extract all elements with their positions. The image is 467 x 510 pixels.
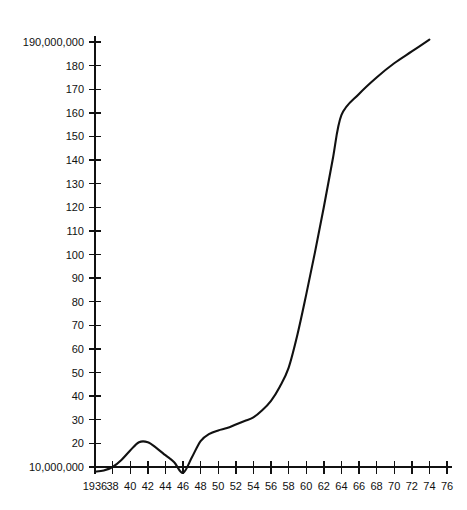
x-axis-labels: 1936384042444648505254565860626466687072… (83, 480, 453, 492)
y-tick-label: 110 (66, 225, 84, 237)
y-tick-label: 90 (72, 272, 84, 284)
y-tick-label: 20 (72, 437, 84, 449)
x-tick-label: 50 (212, 480, 224, 492)
x-tick-label: 74 (423, 480, 435, 492)
x-tick-label: 38 (106, 480, 118, 492)
y-tick-label: 60 (72, 343, 84, 355)
chart-container: 10,000,000203040506070809010011012013014… (0, 0, 467, 510)
y-tick-label: 70 (72, 319, 84, 331)
y-tick-label: 150 (66, 130, 84, 142)
x-tick-label: 58 (282, 480, 294, 492)
y-tick-label: 190,000,000 (23, 36, 84, 48)
x-tick-label: 64 (335, 480, 347, 492)
x-tick-label: 40 (124, 480, 136, 492)
line-chart: 10,000,000203040506070809010011012013014… (0, 0, 467, 510)
y-tick-label: 120 (66, 201, 84, 213)
x-tick-label: 70 (388, 480, 400, 492)
y-tick-label: 180 (66, 60, 84, 72)
y-tick-label: 80 (72, 296, 84, 308)
y-tick-label: 50 (72, 367, 84, 379)
x-tick-label: 44 (159, 480, 171, 492)
x-tick-label: 52 (230, 480, 242, 492)
x-tick-label: 48 (194, 480, 206, 492)
data-series-line (95, 40, 429, 473)
x-tick-label: 62 (318, 480, 330, 492)
x-tick-label: 1936 (83, 480, 107, 492)
y-tick-label: 170 (66, 83, 84, 95)
x-tick-label: 66 (353, 480, 365, 492)
x-tick-label: 56 (265, 480, 277, 492)
x-tick-label: 42 (142, 480, 154, 492)
y-tick-label: 30 (72, 414, 84, 426)
x-tick-label: 72 (406, 480, 418, 492)
y-tick-label: 140 (66, 154, 84, 166)
y-tick-label: 100 (66, 249, 84, 261)
y-tick-label: 160 (66, 107, 84, 119)
x-tick-label: 68 (370, 480, 382, 492)
y-tick-label: 40 (72, 390, 84, 402)
y-axis-labels: 10,000,000203040506070809010011012013014… (23, 36, 84, 473)
x-tick-label: 76 (441, 480, 453, 492)
y-tick-label: 10,000,000 (29, 461, 84, 473)
y-tick-label: 130 (66, 178, 84, 190)
x-tick-label: 46 (177, 480, 189, 492)
x-tick-label: 60 (300, 480, 312, 492)
x-tick-label: 54 (247, 480, 259, 492)
